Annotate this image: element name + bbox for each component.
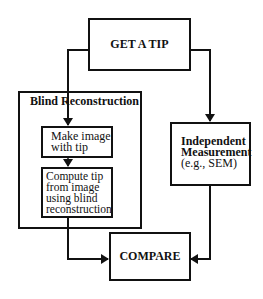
get-a-tip-label: GET A TIP: [110, 37, 168, 52]
compute-tip-box: Compute tip from image using blind recon…: [41, 167, 113, 218]
compare-box: COMPARE: [109, 232, 191, 281]
independent-measurement-box: Independent Measurement (e.g., SEM): [170, 122, 251, 186]
arrow-independent-to-compare: [191, 185, 210, 259]
blind-reconstruction-label: Blind Reconstruction: [30, 96, 139, 107]
make-image-box: Make image with tip: [41, 126, 113, 158]
get-a-tip-box: GET A TIP: [88, 18, 191, 71]
compare-label: COMPARE: [119, 249, 180, 264]
compute-tip-line4: reconstruction: [46, 204, 112, 215]
independent-line3: (e.g., SEM): [181, 158, 251, 169]
arrow-get-tip-to-independent: [190, 50, 210, 121]
make-image-line2: with tip: [51, 142, 111, 153]
